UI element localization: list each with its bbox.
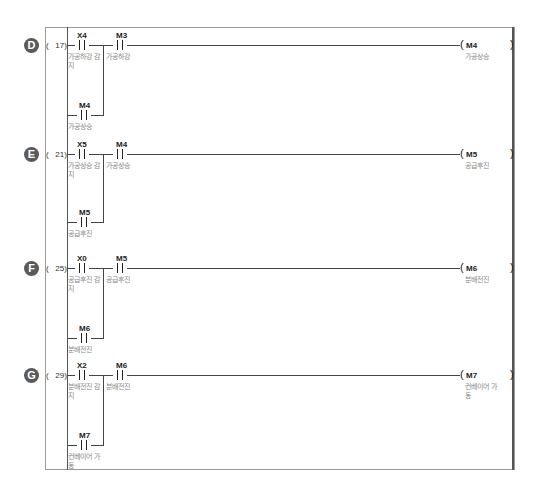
contact-comment: 가공상승: [106, 161, 140, 170]
contact-device: M6: [116, 361, 127, 370]
branch-wire: [103, 45, 104, 115]
coil-device[interactable]: M6: [466, 264, 477, 273]
coil-comment: 공급후진: [465, 161, 499, 170]
step-number: ( 25): [46, 264, 67, 273]
branch-contact-comment: 공급후진: [68, 229, 102, 238]
contact-comment: 공급후진 감지: [68, 275, 102, 293]
rung-label-badge: D: [24, 38, 39, 53]
coil-close-icon: ): [510, 38, 514, 50]
branch-contact-comment: 컨베이어 가동: [68, 452, 102, 470]
contact-comment: 가공상승 감지: [68, 161, 102, 179]
coil-device[interactable]: M7: [466, 371, 477, 380]
contact-comment: 가공하강: [106, 52, 140, 61]
coil-close-icon: ): [510, 368, 514, 380]
no-contact-icon[interactable]: [75, 370, 89, 380]
no-contact-icon[interactable]: [75, 149, 89, 159]
contact-comment: 공급후진: [106, 275, 140, 284]
coil-open-icon: (: [460, 368, 464, 380]
contact-comment: 분배전진 감지: [68, 382, 102, 400]
coil-open-icon: (: [460, 147, 464, 159]
branch-wire: [103, 268, 104, 338]
contact-device: X4: [77, 31, 87, 40]
no-contact-icon[interactable]: [75, 40, 89, 50]
ladder-frame: [45, 27, 515, 470]
rung-label-badge: E: [24, 147, 39, 162]
no-contact-icon[interactable]: [75, 263, 89, 273]
rung-label-badge: G: [24, 368, 39, 383]
no-contact-icon[interactable]: [77, 333, 91, 343]
contact-device: X0: [77, 254, 87, 263]
branch-contact-comment: 분배전진: [68, 345, 102, 354]
coil-comment: 컨베이어 가동: [465, 382, 499, 400]
coil-device[interactable]: M4: [466, 41, 477, 50]
no-contact-icon[interactable]: [77, 110, 91, 120]
no-contact-icon[interactable]: [113, 149, 127, 159]
branch-contact-device: M6: [79, 324, 90, 333]
no-contact-icon[interactable]: [113, 40, 127, 50]
branch-contact-device: M4: [79, 101, 90, 110]
contact-device: X5: [77, 140, 87, 149]
branch-wire: [103, 154, 104, 222]
coil-open-icon: (: [460, 261, 464, 273]
no-contact-icon[interactable]: [113, 370, 127, 380]
step-number: ( 21): [46, 150, 67, 159]
contact-comment: 가공하강 감지: [68, 52, 102, 70]
coil-device[interactable]: M5: [466, 150, 477, 159]
branch-wire: [103, 375, 104, 445]
no-contact-icon[interactable]: [113, 263, 127, 273]
rung-label-badge: F: [24, 261, 39, 276]
coil-close-icon: ): [510, 147, 514, 159]
coil-comment: 가공상승: [465, 52, 499, 61]
contact-device: M3: [116, 31, 127, 40]
no-contact-icon[interactable]: [77, 440, 91, 450]
branch-contact-device: M7: [79, 431, 90, 440]
step-number: ( 29): [46, 371, 67, 380]
step-number: ( 17): [46, 41, 67, 50]
contact-device: M5: [116, 254, 127, 263]
contact-device: X2: [77, 361, 87, 370]
contact-comment: 분배전진: [106, 382, 140, 391]
left-power-rail: [67, 27, 68, 470]
contact-device: M4: [116, 140, 127, 149]
right-power-rail: [512, 27, 514, 470]
no-contact-icon[interactable]: [77, 217, 91, 227]
coil-close-icon: ): [510, 261, 514, 273]
branch-contact-device: M5: [79, 208, 90, 217]
coil-comment: 분배전진: [465, 275, 499, 284]
branch-contact-comment: 가공상승: [68, 122, 102, 131]
coil-open-icon: (: [460, 38, 464, 50]
